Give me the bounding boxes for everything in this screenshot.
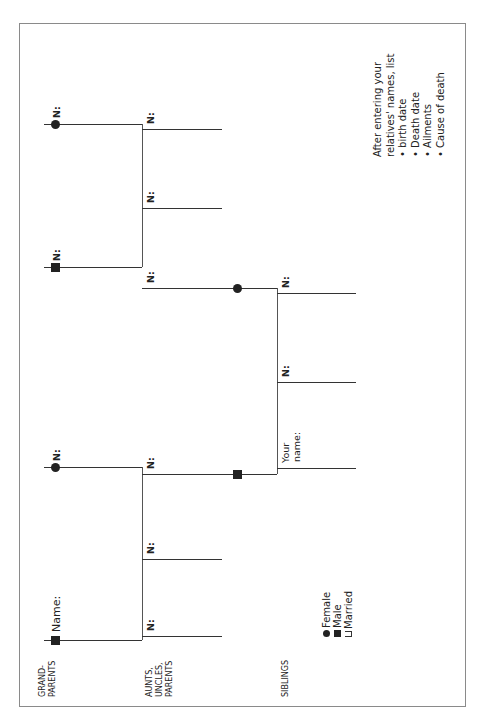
- aunt-uncle-label: N:: [145, 619, 156, 631]
- married-bracket-icon: [345, 631, 352, 637]
- aunt-uncle-line: [142, 208, 222, 209]
- your-name-line1: Your: [280, 432, 291, 463]
- legend: Female Male Married: [321, 591, 354, 637]
- instructions-item: • Death date: [410, 54, 423, 157]
- legend-female: Female: [321, 591, 332, 637]
- your-name-label: Your name:: [280, 432, 302, 463]
- instructions: After entering your relatives' names, li…: [372, 54, 447, 157]
- your-name-line2: name:: [291, 432, 302, 463]
- female-circle-icon: [323, 630, 330, 637]
- female-icon: [233, 284, 242, 293]
- legend-married: Married: [343, 591, 354, 637]
- section-label-aunts-uncles-parents: AUNTS, UNCLES, PARENTS: [145, 661, 175, 697]
- aunt-uncle-label: N:: [145, 457, 156, 469]
- instructions-item: • Ailments: [422, 54, 435, 157]
- grandparent-label: N:: [51, 106, 62, 118]
- grandparent-label: N:: [51, 249, 62, 261]
- female-icon: [51, 463, 60, 472]
- instructions-line2: relatives' names, list: [385, 54, 398, 157]
- grandparent-connector: [142, 467, 143, 640]
- legend-male: Male: [332, 591, 343, 637]
- aunt-uncle-label: N:: [145, 112, 156, 124]
- section-label-grandparents: GRAND- PARENTS: [38, 661, 58, 697]
- grandparent-connector: [142, 124, 143, 267]
- instructions-item: • Cause of death: [435, 54, 448, 157]
- instructions-line1: After entering your: [372, 54, 385, 157]
- aunt-uncle-line: [142, 129, 222, 130]
- sibling-connector: [277, 288, 278, 474]
- male-icon: [51, 263, 60, 272]
- sibling-label: N:: [280, 276, 291, 288]
- aunt-uncle-label: N:: [145, 542, 156, 554]
- male-icon: [233, 470, 242, 479]
- grandparent-label: N:: [51, 449, 62, 461]
- sibling-label: N:: [280, 365, 291, 377]
- aunt-uncle-line: [142, 559, 222, 560]
- sibling-line: [277, 293, 356, 294]
- aunt-uncle-line: [142, 636, 222, 637]
- grandparent-name-label: Name:: [51, 596, 62, 632]
- parent-line-mother: [142, 288, 277, 289]
- male-square-icon: [334, 630, 341, 637]
- parent-line-father: [142, 474, 277, 475]
- section-label-siblings: SIBLINGS: [281, 660, 291, 697]
- aunt-uncle-label: N:: [145, 191, 156, 203]
- male-icon: [51, 636, 60, 645]
- sibling-line-self: [277, 468, 356, 469]
- aunt-uncle-label: N:: [145, 271, 156, 283]
- sibling-line: [277, 382, 356, 383]
- female-icon: [51, 120, 60, 129]
- instructions-item: • birth date: [397, 54, 410, 157]
